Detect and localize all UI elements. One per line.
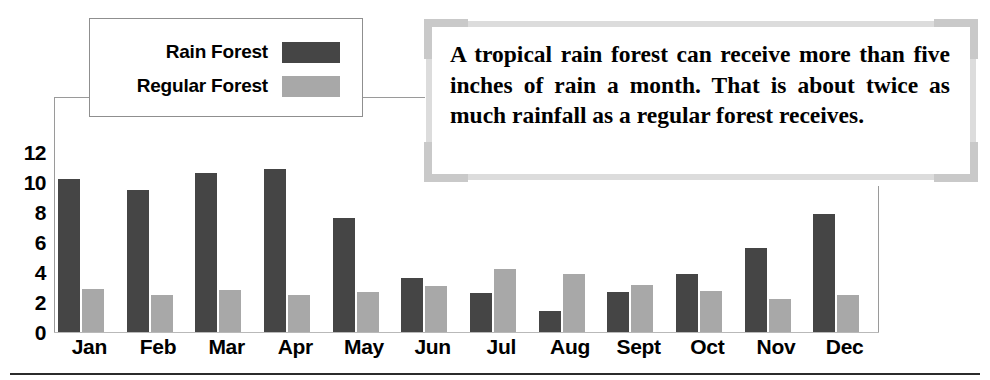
page-bottom-rule xyxy=(10,373,980,375)
legend-item-regular-forest: Regular Forest xyxy=(90,71,362,101)
bar-jul-rain-forest xyxy=(470,293,492,332)
x-axis-label-jun: Jun xyxy=(398,336,467,357)
bar-oct-rain-forest xyxy=(676,274,698,332)
y-axis-tick-2: 2 xyxy=(0,292,46,313)
bar-oct-regular-forest xyxy=(700,291,722,332)
bar-mar-regular-forest xyxy=(219,290,241,332)
x-axis-label-nov: Nov xyxy=(742,336,811,357)
bar-nov-regular-forest xyxy=(769,299,791,332)
x-axis-label-may: May xyxy=(330,336,399,357)
y-axis-tick-10: 10 xyxy=(0,172,46,193)
bar-group xyxy=(58,96,127,332)
x-axis-label-feb: Feb xyxy=(124,336,193,357)
bar-jul-regular-forest xyxy=(494,269,516,332)
bar-aug-regular-forest xyxy=(563,274,585,332)
bar-jun-rain-forest xyxy=(401,278,423,332)
bar-jan-rain-forest xyxy=(58,179,80,332)
x-axis-label-oct: Oct xyxy=(673,336,742,357)
bar-group xyxy=(127,96,196,332)
bar-apr-regular-forest xyxy=(288,295,310,333)
bar-jun-regular-forest xyxy=(425,286,447,332)
bar-mar-rain-forest xyxy=(195,173,217,332)
legend-item-rain-forest: Rain Forest xyxy=(90,37,362,67)
bar-may-rain-forest xyxy=(333,218,355,332)
x-axis-label-jul: Jul xyxy=(467,336,536,357)
bar-apr-rain-forest xyxy=(264,169,286,333)
bar-dec-regular-forest xyxy=(837,295,859,333)
y-axis-tick-0: 0 xyxy=(0,322,46,343)
y-axis-tick-6: 6 xyxy=(0,232,46,253)
bar-group xyxy=(264,96,333,332)
x-axis-label-aug: Aug xyxy=(536,336,605,357)
x-axis-label-apr: Apr xyxy=(261,336,330,357)
bar-group xyxy=(195,96,264,332)
bar-nov-rain-forest xyxy=(745,248,767,332)
x-axis-label-jan: Jan xyxy=(55,336,124,357)
x-axis-label-mar: Mar xyxy=(192,336,261,357)
legend-label-regular-forest: Regular Forest xyxy=(137,75,268,97)
bar-sept-regular-forest xyxy=(631,285,653,332)
legend-label-rain-forest: Rain Forest xyxy=(166,41,268,63)
y-axis-tick-4: 4 xyxy=(0,262,46,283)
rainfall-bar-chart: 121086420 JanFebMarAprMayJunJulAugSeptOc… xyxy=(0,0,990,380)
bar-aug-rain-forest xyxy=(539,311,561,332)
x-axis-label-sept: Sept xyxy=(604,336,673,357)
callout-text: A tropical rain forest can receive more … xyxy=(450,39,950,131)
bar-jan-regular-forest xyxy=(82,289,104,333)
bar-sept-rain-forest xyxy=(607,292,629,332)
bar-may-regular-forest xyxy=(357,292,379,333)
y-axis: 121086420 xyxy=(0,0,46,380)
chart-legend: Rain Forest Regular Forest xyxy=(89,18,363,117)
y-axis-tick-12: 12 xyxy=(0,142,46,163)
bar-feb-regular-forest xyxy=(151,295,173,333)
bar-group xyxy=(333,96,402,332)
legend-swatch-regular-forest xyxy=(282,76,340,97)
x-axis-label-dec: Dec xyxy=(810,336,879,357)
bar-dec-rain-forest xyxy=(813,214,835,333)
y-axis-tick-8: 8 xyxy=(0,202,46,223)
legend-swatch-rain-forest xyxy=(282,42,340,63)
bar-feb-rain-forest xyxy=(127,190,149,333)
callout-box: A tropical rain forest can receive more … xyxy=(424,19,978,182)
